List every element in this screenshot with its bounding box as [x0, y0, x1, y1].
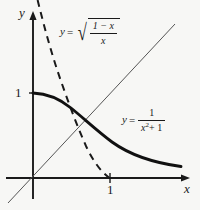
- fraction-solid: 1x2+ 1: [138, 107, 165, 133]
- math-figure: y x 1 1 y=√1 − xx y=1x2+ 1: [0, 0, 200, 210]
- radicand: 1 − xx: [88, 18, 120, 46]
- x-tick-label-1: 1: [107, 183, 114, 196]
- radical-icon: √: [78, 21, 87, 44]
- formula-solid-equals: =: [127, 115, 137, 126]
- y-tick-label-1: 1: [15, 86, 22, 99]
- denominator-tail: + 1: [149, 122, 162, 133]
- x-axis-label: x: [184, 182, 190, 195]
- fraction-dashed: 1 − xx: [90, 20, 117, 46]
- y-axis: [29, 11, 36, 199]
- formula-dashed-curve: y=√1 − xx: [60, 18, 120, 46]
- radical-group: √1 − xx: [75, 18, 120, 46]
- fraction-denominator: x: [90, 34, 117, 47]
- formula-dashed-equals: =: [65, 27, 75, 38]
- fraction-denominator: x2+ 1: [138, 121, 165, 134]
- fraction-numerator: 1 − x: [90, 20, 117, 34]
- y-axis-label: y: [19, 6, 25, 19]
- fraction-numerator: 1: [138, 107, 165, 121]
- formula-solid-curve: y=1x2+ 1: [122, 107, 166, 133]
